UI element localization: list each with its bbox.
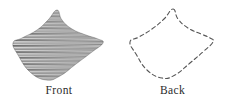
figure-container: Front Back bbox=[0, 0, 227, 109]
panel-front: Front bbox=[0, 0, 118, 109]
back-shape-outline-dashed bbox=[130, 9, 214, 78]
caption-front: Front bbox=[0, 83, 118, 97]
panel-back: Back bbox=[118, 0, 227, 109]
back-shape-drawing bbox=[118, 0, 227, 90]
caption-back: Back bbox=[118, 83, 227, 97]
front-shape-drawing bbox=[0, 0, 118, 90]
front-hatch-fill bbox=[0, 9, 118, 82]
